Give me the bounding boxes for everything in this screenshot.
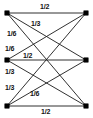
edge-weight-label: 1/6 — [5, 45, 14, 52]
edge-weight-label: 1/3 — [5, 68, 14, 75]
edge-weight-label: 1/2 — [41, 108, 50, 115]
edge-weight-label: 1/2 — [40, 3, 49, 10]
graph-node — [84, 104, 88, 108]
graph-node — [5, 58, 9, 62]
edge-weight-label: 1/3 — [31, 20, 40, 27]
graph-node — [84, 58, 88, 62]
edges-group — [7, 13, 86, 106]
edge-weight-label: 1/6 — [30, 90, 39, 97]
graph-node — [5, 11, 9, 15]
edge-weight-label: 1/6 — [7, 30, 16, 37]
weighted-graph-figure: 1/21/31/61/61/21/31/31/61/2 — [0, 0, 93, 118]
graph-canvas — [0, 0, 93, 118]
graph-node — [5, 104, 9, 108]
graph-node — [84, 11, 88, 15]
edge-weight-label: 1/3 — [5, 84, 14, 91]
edge-weight-label: 1/2 — [23, 52, 32, 59]
